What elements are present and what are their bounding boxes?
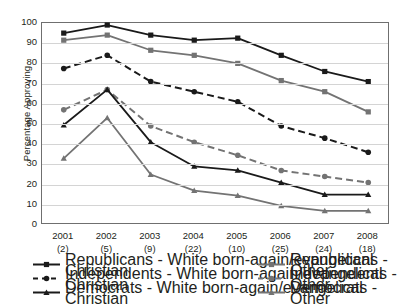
y-axis-tick-label: 70 bbox=[13, 77, 37, 88]
x-axis-year: 2005 bbox=[215, 230, 259, 242]
grid-line bbox=[42, 205, 388, 206]
y-axis-tick-label: 50 bbox=[13, 117, 37, 128]
x-axis-year: 2003 bbox=[128, 230, 172, 242]
x-axis-year: 2002 bbox=[84, 230, 128, 242]
y-axis-tick-label: 80 bbox=[13, 56, 37, 67]
x-axis-year: 2008 bbox=[345, 230, 389, 242]
grid-line bbox=[42, 124, 388, 125]
data-point-marker bbox=[279, 78, 284, 83]
data-point-marker bbox=[269, 276, 275, 282]
plot-area bbox=[41, 22, 389, 224]
grid-line bbox=[42, 104, 388, 105]
grid-line bbox=[42, 84, 388, 85]
data-point-marker bbox=[322, 89, 327, 94]
data-point-marker bbox=[105, 33, 110, 38]
legend-item-label: Democrats - Other bbox=[290, 282, 404, 304]
legend-key-rep-evangelical bbox=[33, 259, 60, 270]
legend-item-dem-other[interactable]: Democrats - Other bbox=[258, 286, 404, 299]
data-point-marker bbox=[366, 109, 371, 114]
grid-line bbox=[42, 63, 388, 64]
legend-key-dem-evangelical bbox=[33, 287, 60, 298]
data-point-marker bbox=[192, 38, 197, 43]
data-point-marker bbox=[105, 22, 110, 27]
data-point-marker bbox=[365, 149, 371, 155]
grid-line bbox=[42, 43, 388, 44]
data-point-marker bbox=[44, 262, 49, 267]
data-point-marker bbox=[322, 174, 328, 180]
series-line bbox=[64, 90, 369, 195]
data-point-marker bbox=[322, 135, 328, 141]
x-axis-year: 2007 bbox=[302, 230, 346, 242]
data-point-marker bbox=[192, 53, 197, 58]
data-point-marker bbox=[191, 89, 197, 95]
data-point-marker bbox=[61, 107, 67, 113]
chart-legend: Republicans - White born-again/evangelic… bbox=[0, 258, 404, 302]
y-axis-tick-label: 0 bbox=[13, 218, 37, 229]
y-axis-tick-label: 20 bbox=[13, 178, 37, 189]
data-point-marker bbox=[235, 153, 241, 159]
data-point-marker bbox=[44, 276, 50, 282]
y-axis-tick-label: 90 bbox=[13, 36, 37, 47]
data-point-marker bbox=[61, 66, 67, 72]
grid-line bbox=[42, 164, 388, 165]
data-point-marker bbox=[148, 33, 153, 38]
x-axis-year: 2006 bbox=[258, 230, 302, 242]
y-axis-tick-label: 30 bbox=[13, 157, 37, 168]
data-point-marker bbox=[104, 53, 110, 59]
y-axis-tick-label: 100 bbox=[13, 16, 37, 27]
data-point-marker bbox=[104, 115, 110, 121]
x-axis-year: 2004 bbox=[171, 230, 215, 242]
y-axis-tick-label: 60 bbox=[13, 97, 37, 108]
grid-line bbox=[42, 144, 388, 145]
legend-key-ind-other bbox=[258, 273, 285, 284]
legend-key-rep-other bbox=[258, 259, 285, 270]
y-axis-tick-label: 40 bbox=[13, 137, 37, 148]
x-axis-year: 2001 bbox=[41, 230, 85, 242]
data-point-marker bbox=[148, 48, 153, 53]
data-point-marker bbox=[269, 262, 274, 267]
legend-key-dem-other bbox=[258, 287, 285, 298]
data-point-marker bbox=[322, 69, 327, 74]
data-point-marker bbox=[61, 38, 66, 43]
data-point-marker bbox=[278, 168, 284, 174]
data-point-marker bbox=[235, 36, 240, 41]
data-point-marker bbox=[61, 31, 66, 36]
grid-line bbox=[42, 185, 388, 186]
legend-key-ind-evangelical bbox=[33, 273, 60, 284]
y-axis-tick-label: 10 bbox=[13, 198, 37, 209]
data-point-marker bbox=[279, 53, 284, 58]
